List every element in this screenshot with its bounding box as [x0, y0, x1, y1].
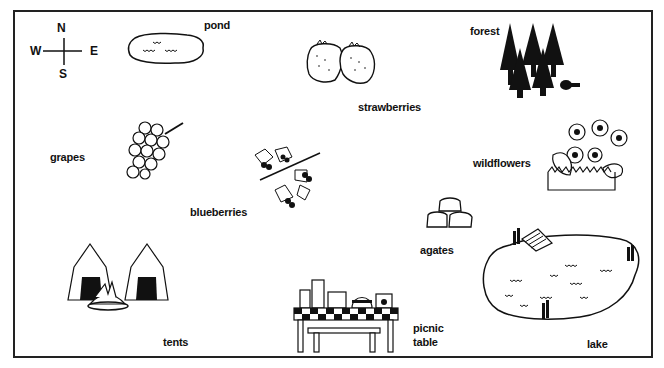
- blueberries-icon: [250, 145, 325, 215]
- blueberries-label: blueberries: [190, 206, 247, 219]
- forest-label: forest: [470, 25, 499, 38]
- picnic-table-label-line2: table: [413, 336, 438, 349]
- grapes-label: grapes: [50, 151, 85, 164]
- wildflowers-label: wildflowers: [473, 157, 531, 170]
- agates-label: agates: [420, 244, 454, 257]
- strawberries-icon: [305, 40, 385, 90]
- strawberries-label: strawberries: [358, 101, 421, 114]
- lake-label: lake: [587, 338, 608, 351]
- pond-label: pond: [204, 19, 230, 32]
- tents-label: tents: [163, 336, 188, 349]
- lake-icon: [480, 225, 650, 330]
- forest-icon: [498, 20, 588, 100]
- picnic-table-icon: [290, 272, 400, 356]
- tents-icon: [60, 242, 190, 310]
- picnic-table-label-line1: picnic: [413, 322, 444, 335]
- agates-icon: [425, 197, 475, 232]
- compass-cross-icon: [40, 35, 85, 70]
- grapes-icon: [125, 120, 190, 180]
- compass-north: N: [57, 21, 66, 35]
- compass-east: E: [90, 44, 98, 58]
- pond-icon: [125, 30, 210, 68]
- wildflowers-icon: [545, 120, 625, 195]
